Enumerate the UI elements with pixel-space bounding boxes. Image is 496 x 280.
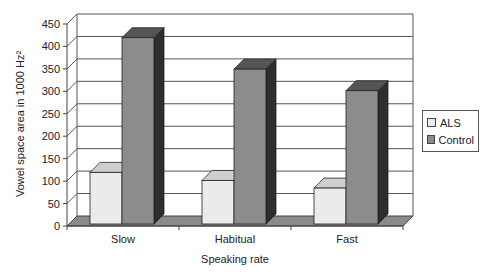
y-tick-label: 100 bbox=[42, 175, 60, 187]
legend-label-als: ALS bbox=[440, 117, 461, 129]
y-tick-label: 50 bbox=[48, 198, 60, 210]
y-tick-label: 350 bbox=[42, 63, 60, 75]
y-tick-label: 400 bbox=[42, 40, 60, 52]
legend-swatch-control bbox=[427, 135, 435, 144]
legend-item-als: ALS bbox=[427, 114, 474, 131]
y-tick-label: 150 bbox=[42, 153, 60, 165]
bar-control-slow bbox=[122, 28, 164, 224]
legend-label-control: Control bbox=[439, 134, 474, 146]
legend-item-control: Control bbox=[427, 131, 474, 148]
x-axis: SlowHabitualFast bbox=[67, 226, 403, 245]
y-tick-label: 200 bbox=[42, 130, 60, 142]
x-axis-title: Speaking rate bbox=[201, 253, 269, 265]
y-tick-label: 250 bbox=[42, 108, 60, 120]
y-axis-title: Vowel space area in 1000 Hz² bbox=[14, 51, 26, 197]
x-tick-label-fast: Fast bbox=[336, 233, 357, 245]
x-tick-label-slow: Slow bbox=[111, 233, 135, 245]
y-tick-label: 0 bbox=[54, 220, 60, 232]
y-axis: 050100150200250300350400450 bbox=[42, 18, 67, 232]
bar-control-habitual bbox=[234, 59, 276, 224]
x-tick-label-habitual: Habitual bbox=[215, 233, 255, 245]
y-tick-label: 300 bbox=[42, 85, 60, 97]
legend: ALS Control bbox=[422, 110, 479, 152]
y-tick-label: 450 bbox=[42, 18, 60, 30]
legend-swatch-als bbox=[427, 118, 436, 127]
bar-control-fast bbox=[346, 81, 388, 224]
